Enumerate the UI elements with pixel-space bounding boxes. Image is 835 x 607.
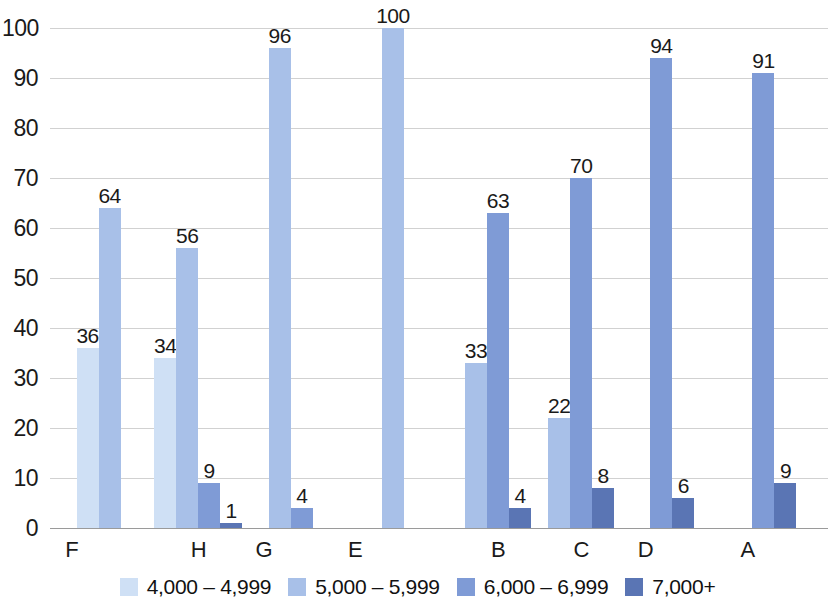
bar-b-series-3[interactable]: 63: [487, 213, 509, 528]
bar-group-g: 964G: [242, 28, 344, 528]
y-axis-tick-label: 20: [2, 415, 38, 442]
bar-slot: 9: [774, 28, 796, 528]
bar-b-series-4[interactable]: 4: [509, 508, 531, 528]
legend-item-1[interactable]: 4,000 – 4,999: [120, 575, 272, 599]
y-axis-tick-label: 100: [2, 15, 38, 42]
bar-a-series-4[interactable]: 9: [774, 483, 796, 528]
bar-slot: 94: [650, 28, 672, 528]
bar-value-label: 9: [204, 460, 215, 481]
legend-item-2[interactable]: 5,000 – 5,999: [288, 575, 440, 599]
legend-item-4[interactable]: 7,000+: [625, 575, 715, 599]
legend-item-3[interactable]: 6,000 – 6,999: [457, 575, 609, 599]
bar-value-label: 91: [752, 50, 774, 71]
bar-value-label: 34: [154, 335, 176, 356]
bar-value-label: 100: [376, 5, 410, 26]
bar-slot: 8: [592, 28, 614, 528]
y-axis-tick-label: 70: [2, 165, 38, 192]
bar-value-label: 4: [514, 485, 525, 506]
bar-slot: 1: [220, 28, 242, 528]
legend-label: 4,000 – 4,999: [147, 575, 272, 599]
bar-value-label: 1: [226, 500, 237, 521]
y-axis-tick-label: 80: [2, 115, 38, 142]
x-axis-tick-label-g: G: [216, 537, 313, 563]
x-axis-tick-label-a: A: [699, 537, 796, 563]
y-axis-tick-label: 60: [2, 215, 38, 242]
y-axis-tick-label: 50: [2, 265, 38, 292]
bar-value-label: 8: [598, 465, 609, 486]
bar-slot: 63: [487, 28, 509, 528]
bar-d-series-3[interactable]: 94: [650, 58, 672, 528]
x-axis-tick-label-e: E: [307, 537, 404, 563]
bar-slot: 91: [752, 28, 774, 528]
legend-label: 5,000 – 5,999: [315, 575, 440, 599]
bar-c-series-2[interactable]: 22: [548, 418, 570, 528]
bar-group-a: 919A: [726, 28, 828, 528]
bar-value-label: 56: [176, 225, 198, 246]
x-axis-tick-label-d: D: [597, 537, 694, 563]
bar-value-label: 64: [98, 185, 120, 206]
y-axis-tick-label: 90: [2, 65, 38, 92]
bar-h-series-4[interactable]: 1: [220, 523, 242, 528]
bar-chart: 1009080706050403020100 3664F345691H964G1…: [0, 0, 835, 607]
bar-group-h: 345691H: [152, 28, 242, 528]
bar-slot: 36: [77, 28, 99, 528]
bar-c-series-4[interactable]: 8: [592, 488, 614, 528]
bar-slot: 33: [465, 28, 487, 528]
bar-f-series-2[interactable]: 64: [99, 208, 121, 528]
bar-value-label: 96: [269, 25, 291, 46]
axis-baseline: [50, 528, 828, 529]
bar-slot: 34: [154, 28, 176, 528]
bar-value-label: 94: [650, 35, 672, 56]
x-axis-tick-label-f: F: [23, 537, 120, 563]
bar-value-label: 22: [548, 395, 570, 416]
bar-value-label: 4: [296, 485, 307, 506]
bar-slot: 96: [269, 28, 291, 528]
bar-group-c: 22708C: [541, 28, 624, 528]
bar-slot: 4: [509, 28, 531, 528]
bar-d-series-4[interactable]: 6: [672, 498, 694, 528]
bar-h-series-2[interactable]: 56: [176, 248, 198, 528]
bar-group-b: 33634B: [457, 28, 540, 528]
bar-h-series-1[interactable]: 34: [154, 358, 176, 528]
bar-slot: 56: [176, 28, 198, 528]
bar-f-series-1[interactable]: 36: [77, 348, 99, 528]
y-axis-tick-label: 40: [2, 315, 38, 342]
bar-value-label: 63: [487, 190, 509, 211]
bar-groups: 3664F345691H964G100E33634B22708C946D919A: [50, 28, 828, 528]
bar-c-series-3[interactable]: 70: [570, 178, 592, 528]
legend-label: 6,000 – 6,999: [484, 575, 609, 599]
chart-legend: 4,000 – 4,9995,000 – 5,9996,000 – 6,9997…: [0, 575, 835, 599]
bar-slot: 9: [198, 28, 220, 528]
bar-value-label: 70: [570, 155, 592, 176]
bar-value-label: 9: [780, 460, 791, 481]
bar-e-series-2[interactable]: 100: [382, 28, 404, 528]
bar-slot: 6: [672, 28, 694, 528]
y-axis-tick-label: 10: [2, 465, 38, 492]
legend-swatch-icon: [120, 578, 138, 596]
y-axis-tick-label: 30: [2, 365, 38, 392]
bar-g-series-2[interactable]: 96: [269, 48, 291, 528]
bar-value-label: 33: [465, 340, 487, 361]
legend-swatch-icon: [625, 578, 643, 596]
bar-slot: 100: [382, 28, 404, 528]
bar-h-series-3[interactable]: 9: [198, 483, 220, 528]
bar-group-e: 100E: [344, 28, 457, 528]
bar-group-d: 946D: [624, 28, 726, 528]
bar-group-f: 3664F: [50, 28, 152, 528]
bar-value-label: 36: [76, 325, 98, 346]
bar-value-label: 6: [678, 475, 689, 496]
legend-swatch-icon: [457, 578, 475, 596]
bar-b-series-2[interactable]: 33: [465, 363, 487, 528]
bar-slot: 22: [548, 28, 570, 528]
bar-slot: 70: [570, 28, 592, 528]
bar-slot: 4: [291, 28, 313, 528]
legend-swatch-icon: [288, 578, 306, 596]
bar-slot: 64: [99, 28, 121, 528]
legend-label: 7,000+: [652, 575, 715, 599]
bar-g-series-3[interactable]: 4: [291, 508, 313, 528]
bar-a-series-3[interactable]: 91: [752, 73, 774, 528]
